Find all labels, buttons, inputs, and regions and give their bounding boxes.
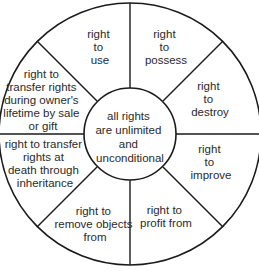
property-rights-wheel: all rights are unlimited and uncondition… [0,0,259,271]
sector-right-to-profit: right to profit from [140,204,192,229]
